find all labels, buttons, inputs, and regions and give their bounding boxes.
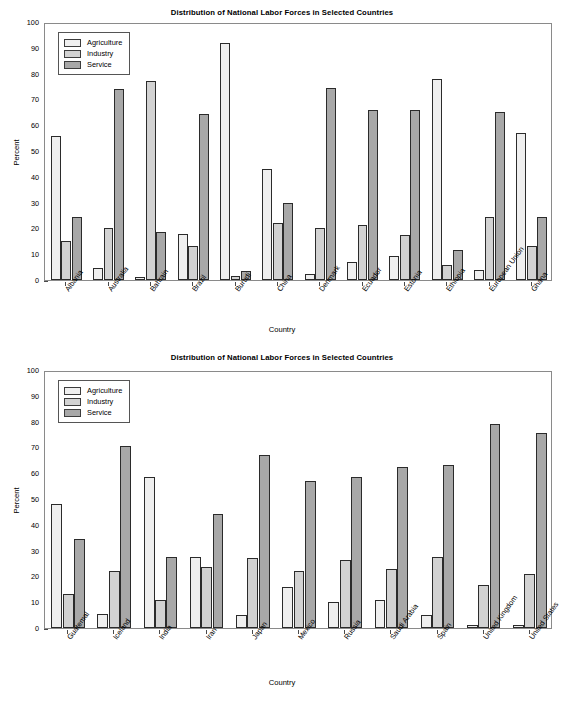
y-axis-tick-label: 90 [31, 44, 44, 54]
legend-item: Industry [64, 48, 122, 59]
bar-industry [478, 585, 489, 628]
legend-swatch-service [64, 409, 81, 417]
bar-agriculture [347, 262, 357, 280]
y-axis-tick-label: 30 [31, 547, 44, 557]
bar-agriculture [375, 600, 386, 628]
bar-industry [104, 228, 114, 280]
bar-service [213, 514, 224, 628]
plot-area: Agriculture Industry Service [44, 371, 552, 629]
plot-area: Agriculture Industry Service [44, 23, 552, 281]
y-axis: 0102030405060708090100 [0, 23, 44, 281]
y-axis-tick-label: 40 [31, 173, 44, 183]
y-axis-tick-label: 20 [31, 224, 44, 234]
legend-item: Service [64, 59, 122, 70]
y-axis-tick-label: 80 [31, 418, 44, 428]
bar-group [276, 372, 322, 628]
legend-item: Agriculture [64, 385, 122, 396]
legend-label-agriculture: Agriculture [87, 38, 122, 47]
y-axis-tick-label: 10 [31, 598, 44, 608]
legend-swatch-agriculture [64, 39, 81, 47]
x-axis-label: Country [0, 678, 564, 687]
bar-agriculture [432, 79, 442, 280]
y-axis-tick-label: 40 [31, 521, 44, 531]
bar-group [214, 24, 256, 280]
bar-industry [294, 571, 305, 628]
legend-label-agriculture: Agriculture [87, 386, 122, 395]
bar-agriculture [328, 602, 339, 628]
legend-swatch-industry [64, 398, 81, 406]
bar-service [114, 89, 124, 280]
bar-agriculture [220, 43, 230, 280]
legend: Agriculture Industry Service [58, 32, 130, 75]
bar-agriculture [144, 477, 155, 628]
bar-group [257, 24, 299, 280]
legend-item: Service [64, 407, 122, 418]
bar-service [495, 112, 505, 280]
bar-service [305, 481, 316, 628]
bar-group [172, 24, 214, 280]
y-axis-tick-label: 70 [31, 95, 44, 105]
bar-industry [188, 246, 198, 280]
bar-group [341, 24, 383, 280]
bar-industry [61, 241, 71, 280]
bar-industry [485, 217, 495, 280]
chart-title: Distribution of National Labor Forces in… [0, 8, 564, 17]
y-axis-tick-label: 90 [31, 392, 44, 402]
bar-industry [315, 228, 325, 280]
bar-industry [109, 571, 120, 628]
bar-industry [201, 567, 212, 628]
bar-service [259, 455, 270, 628]
bar-agriculture [305, 274, 315, 280]
legend: Agriculture Industry Service [58, 380, 130, 423]
bar-industry [527, 246, 537, 280]
legend-item: Industry [64, 396, 122, 407]
legend-swatch-service [64, 61, 81, 69]
chart-panel-top: Distribution of National Labor Forces in… [0, 0, 564, 345]
y-axis: 0102030405060708090100 [0, 371, 44, 629]
bar-agriculture [236, 615, 247, 628]
legend-item: Agriculture [64, 37, 122, 48]
bar-group [368, 372, 414, 628]
y-axis-tick-label: 0 [35, 624, 44, 634]
bar-industry [146, 81, 156, 280]
legend-label-industry: Industry [87, 49, 113, 58]
bar-industry [386, 569, 397, 628]
y-axis-tick-label: 70 [31, 443, 44, 453]
y-axis-tick-label: 50 [31, 495, 44, 505]
chart-title: Distribution of National Labor Forces in… [0, 353, 564, 362]
bar-group [184, 372, 230, 628]
bar-agriculture [262, 169, 272, 280]
bar-agriculture [474, 270, 484, 280]
bar-group [230, 372, 276, 628]
y-axis-tick-mark [44, 281, 48, 282]
chart-panel-bottom: Distribution of National Labor Forces in… [0, 345, 564, 700]
bar-industry [432, 557, 443, 628]
bar-industry [273, 223, 283, 280]
bar-industry [358, 225, 368, 280]
y-axis-tick-label: 60 [31, 121, 44, 131]
y-axis-tick-label: 50 [31, 147, 44, 157]
bar-service [326, 88, 336, 280]
x-axis-label: Country [0, 325, 564, 334]
bar-group [384, 24, 426, 280]
bar-service [443, 465, 454, 628]
legend-label-service: Service [87, 408, 112, 417]
bar-agriculture [389, 256, 399, 281]
bar-agriculture [467, 625, 478, 628]
bar-agriculture [190, 557, 201, 628]
bar-group [414, 372, 460, 628]
y-axis-tick-label: 60 [31, 469, 44, 479]
bar-service [166, 557, 177, 628]
y-axis-tick-label: 100 [27, 366, 44, 376]
bar-agriculture [97, 614, 108, 628]
bar-service [410, 110, 420, 280]
bar-industry [400, 235, 410, 280]
bar-agriculture [93, 268, 103, 280]
y-axis-tick-mark [44, 629, 48, 630]
y-axis-tick-label: 20 [31, 572, 44, 582]
bar-agriculture [513, 625, 524, 628]
bar-group [426, 24, 468, 280]
bar-agriculture [421, 615, 432, 628]
bar-service [536, 433, 547, 628]
bar-industry [340, 560, 351, 628]
